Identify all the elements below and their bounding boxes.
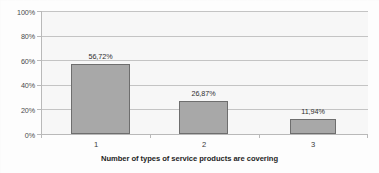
y-tick-label-20: 20% — [5, 106, 35, 115]
bar-3[interactable] — [290, 119, 336, 134]
y-tick-label-100: 100% — [5, 8, 35, 17]
y-tick-label-80: 80% — [5, 32, 35, 41]
bar-2[interactable] — [179, 101, 228, 134]
bar-slot-3: 11,94% — [290, 11, 336, 134]
bar-chart: 100% 80% 60% 40% 20% 0% 56,72% 26,87% 11… — [0, 0, 379, 173]
x-axis-title: Number of types of service products are … — [0, 154, 379, 163]
bar-slot-1: 56,72% — [71, 11, 130, 134]
x-tick-mark-1 — [41, 134, 42, 138]
y-tick-label-40: 40% — [5, 81, 35, 90]
x-tick-mark-4 — [367, 134, 368, 138]
x-tick-mark-2 — [150, 134, 151, 138]
x-tick-mark-3 — [259, 134, 260, 138]
y-tick-label-0: 0% — [5, 131, 35, 140]
bars-layer: 56,72% 26,87% 11,94% — [41, 11, 367, 134]
x-tick-label-2: 2 — [202, 140, 206, 149]
x-tick-label-1: 1 — [94, 140, 98, 149]
bar-value-1: 56,72% — [88, 52, 112, 61]
bar-1[interactable] — [71, 64, 130, 134]
bar-value-3: 11,94% — [301, 107, 325, 116]
bar-slot-2: 26,87% — [179, 11, 228, 134]
y-tick-label-60: 60% — [5, 57, 35, 66]
bar-value-2: 26,87% — [191, 89, 215, 98]
x-tick-label-3: 3 — [311, 140, 315, 149]
